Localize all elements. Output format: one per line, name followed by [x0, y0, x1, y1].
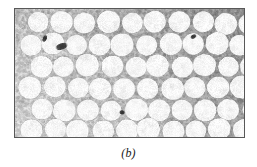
figure-root: (b)	[0, 0, 257, 167]
micrograph-image	[15, 9, 244, 137]
figure-caption: (b)	[0, 146, 257, 161]
micrograph-figure	[14, 8, 245, 138]
micrograph-frame	[14, 8, 245, 138]
